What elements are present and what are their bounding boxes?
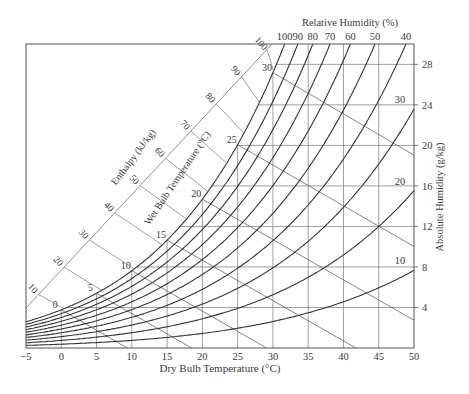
- psychrometric-chart: 051015202530 102030405060708090100 −5051…: [0, 0, 469, 394]
- tick-label: 10: [395, 255, 406, 266]
- tick-label: 28: [422, 59, 433, 70]
- x-axis-label: Dry Bulb Temperature (°C): [159, 362, 280, 375]
- tick-label: 40: [401, 31, 412, 42]
- tick-label: −5: [20, 351, 31, 362]
- tick-label: 50: [127, 173, 141, 187]
- tick-label: 15: [156, 229, 166, 240]
- tick-label: 12: [422, 221, 433, 232]
- tick-label: 70: [178, 118, 192, 132]
- tick-label: 20: [395, 176, 406, 187]
- tick-label: 5: [94, 351, 99, 362]
- enthalpy-scale: 102030405060708090100: [26, 35, 274, 309]
- tick-label: 30: [268, 351, 279, 362]
- top-axis-label: Relative Humidity (%): [302, 17, 399, 29]
- plot-frame: [26, 44, 414, 348]
- tick-label: 90: [229, 64, 243, 78]
- tick-label: 4: [422, 302, 428, 313]
- tick-label: 0: [59, 351, 64, 362]
- tick-label: 10: [127, 351, 138, 362]
- tick-label: 40: [338, 351, 349, 362]
- tick-label: 100: [277, 31, 293, 42]
- tick-label: 20: [191, 188, 201, 199]
- tick-label: 10: [26, 282, 40, 296]
- tick-label: 16: [422, 181, 433, 192]
- tick-label: 8: [422, 262, 427, 273]
- tick-label: 5: [88, 282, 93, 293]
- tick-label: 35: [303, 351, 314, 362]
- tick-label: 50: [409, 351, 420, 362]
- tick-label: 25: [232, 351, 243, 362]
- rh-curve-30: [26, 109, 414, 340]
- tick-label: 90: [293, 31, 304, 42]
- tick-label: 60: [153, 145, 167, 159]
- tick-label: 40: [102, 200, 116, 214]
- tick-label: 15: [162, 351, 173, 362]
- tick-label: 20: [422, 140, 433, 151]
- tick-label: 30: [395, 94, 406, 105]
- tick-label: 20: [51, 254, 65, 268]
- tick-label: 60: [345, 31, 356, 42]
- rh-curve-60: [26, 44, 350, 332]
- x-axis-ticks: −505101520253035404550: [20, 351, 419, 362]
- tick-label: 45: [373, 351, 384, 362]
- rh-curve-70: [26, 44, 330, 330]
- tick-label: 24: [422, 100, 433, 111]
- tick-label: 30: [77, 227, 91, 241]
- rh-labels: 100908070605040302010: [277, 31, 412, 266]
- y-axis-ticks: 481216202428: [414, 59, 433, 313]
- rh-curve-40: [26, 44, 406, 338]
- tick-label: 25: [227, 134, 237, 145]
- tick-label: 20: [197, 351, 208, 362]
- relative-humidity-curves: [26, 44, 414, 345]
- rh-curve-90: [26, 44, 298, 324]
- tick-label: 80: [308, 31, 319, 42]
- tick-label: 50: [370, 31, 381, 42]
- tick-label: 80: [204, 91, 218, 105]
- y-axis-label: Absolute Humidity (g/kg): [434, 142, 446, 252]
- tick-label: 70: [325, 31, 336, 42]
- tick-label: 30: [262, 62, 272, 73]
